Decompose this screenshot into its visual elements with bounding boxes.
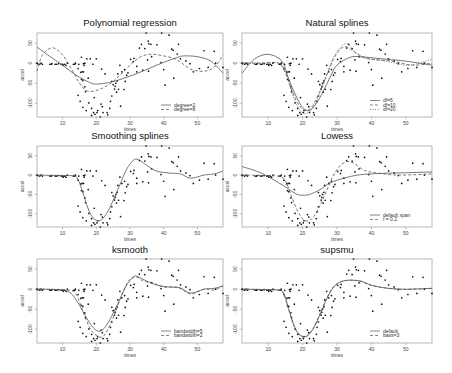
data-point <box>302 338 304 340</box>
data-point <box>178 43 180 45</box>
data-point <box>381 77 383 79</box>
data-point <box>322 317 324 319</box>
legend-label: f = 0.2 <box>383 216 397 222</box>
data-point <box>102 332 104 334</box>
data-point <box>75 62 77 64</box>
data-point <box>91 115 93 117</box>
data-point <box>307 103 309 105</box>
data-point <box>207 178 209 180</box>
data-point <box>94 113 96 115</box>
data-point <box>150 156 152 158</box>
data-point <box>384 53 386 55</box>
data-point <box>189 289 191 291</box>
data-point <box>302 170 304 172</box>
data-point <box>313 114 315 116</box>
data-point <box>313 224 315 226</box>
data-point <box>83 71 85 73</box>
data-point <box>176 279 178 281</box>
data-point <box>142 295 144 297</box>
data-point <box>401 71 403 73</box>
data-point <box>185 286 187 288</box>
data-point <box>300 224 302 226</box>
data-point <box>88 328 90 330</box>
data-point <box>100 214 102 216</box>
data-point <box>321 197 323 199</box>
data-point <box>376 147 378 149</box>
data-point <box>280 174 282 176</box>
data-point <box>384 165 386 167</box>
y-tick-label: 0 <box>27 173 33 176</box>
x-tick-label: 40 <box>369 120 375 126</box>
data-point <box>299 112 301 114</box>
data-point <box>340 57 342 59</box>
data-point <box>117 299 119 301</box>
data-point <box>114 88 116 90</box>
data-point <box>130 171 132 173</box>
data-point <box>268 64 270 66</box>
data-point <box>369 258 371 260</box>
data-point <box>431 293 433 295</box>
panel-title: supsmu <box>320 244 353 255</box>
data-point <box>176 165 178 167</box>
data-point <box>354 171 356 173</box>
data-point <box>288 217 290 219</box>
data-point <box>118 199 120 201</box>
data-point <box>299 338 301 340</box>
data-point <box>64 63 66 65</box>
data-point <box>380 49 382 51</box>
y-axis-label: accel <box>19 295 25 307</box>
y-tick-label: -100 <box>27 209 33 219</box>
data-point <box>283 205 285 207</box>
data-point <box>115 82 117 84</box>
data-point <box>302 222 304 224</box>
data-point <box>291 220 293 222</box>
data-point <box>189 175 191 177</box>
legend: defaultbass=3 <box>370 328 399 339</box>
data-point <box>126 186 128 188</box>
data-point <box>171 48 173 50</box>
data-point <box>168 34 170 36</box>
data-point <box>318 192 320 194</box>
x-axis-label: times <box>124 352 136 358</box>
data-point <box>93 323 95 325</box>
data-point <box>416 293 418 295</box>
data-point <box>112 84 114 86</box>
data-point <box>343 183 345 185</box>
data-point <box>119 64 121 66</box>
data-point <box>101 180 103 182</box>
data-point <box>147 40 149 42</box>
data-point <box>340 287 342 289</box>
panel-title: Lowess <box>321 130 353 141</box>
data-point <box>82 107 84 109</box>
data-point <box>364 270 366 272</box>
data-point <box>112 195 114 197</box>
data-point <box>288 333 290 335</box>
data-point <box>297 225 299 227</box>
data-point <box>326 290 328 292</box>
data-point <box>340 173 342 175</box>
data-point <box>334 72 336 74</box>
data-point <box>161 145 163 147</box>
data-point <box>116 317 118 319</box>
data-point <box>142 181 144 183</box>
data-point <box>172 162 174 164</box>
data-point <box>102 106 104 108</box>
data-point <box>147 59 149 61</box>
data-point <box>340 283 342 285</box>
data-point <box>102 338 104 340</box>
data-point <box>300 339 302 341</box>
data-point <box>331 81 333 83</box>
data-point <box>178 269 180 271</box>
data-point <box>371 180 373 182</box>
data-point <box>147 285 149 287</box>
data-point <box>330 200 332 202</box>
data-point <box>307 294 309 296</box>
data-point <box>412 50 414 52</box>
data-point <box>388 284 390 286</box>
data-point <box>124 307 126 309</box>
data-point <box>306 116 308 118</box>
data-point <box>355 269 357 271</box>
data-point <box>313 338 315 340</box>
data-point <box>300 113 302 115</box>
data-point <box>93 207 95 209</box>
